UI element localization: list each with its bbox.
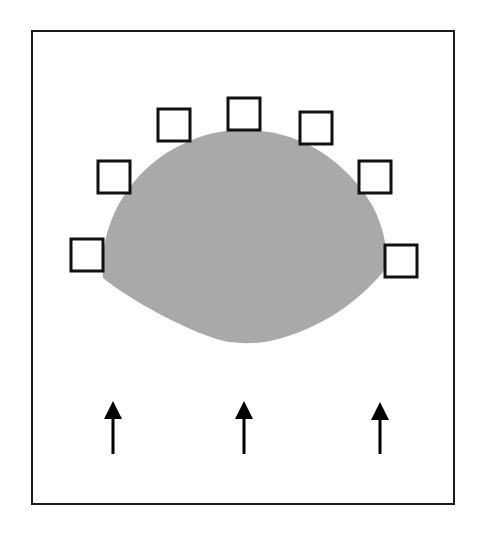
square-marker-4 (228, 98, 260, 130)
square-marker-5 (300, 112, 332, 144)
up-arrow-icon (371, 402, 389, 454)
square-marker-7 (385, 245, 417, 277)
up-arrow-icon (235, 401, 253, 454)
square-marker-1 (71, 239, 103, 271)
gray-blob-shape (102, 130, 386, 343)
up-arrow-icon (104, 401, 122, 454)
square-marker-6 (359, 161, 391, 193)
square-marker-2 (98, 161, 130, 193)
upward-arrows (104, 401, 389, 454)
square-marker-3 (158, 109, 190, 141)
diagram-canvas (0, 0, 478, 538)
